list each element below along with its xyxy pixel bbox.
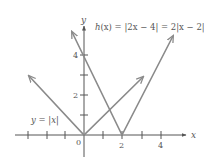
y-abs-x-label: y = |x| <box>30 115 59 126</box>
y-tick-label-2: 2 <box>73 91 78 100</box>
graph-canvas: y x 0 2 4 2 4 h(x) = |2x − 4| = 2|x − 2|… <box>0 0 204 167</box>
curve-h-x <box>72 32 173 135</box>
x-tick-label-2: 2 <box>119 141 124 150</box>
h-label-rest: (x) = |2x − 4| = 2|x − 2| <box>100 22 204 33</box>
x-tick-label-4: 4 <box>158 141 163 150</box>
y-axis <box>80 26 88 157</box>
y-tick-label-4: 4 <box>73 51 78 60</box>
x-axis <box>15 131 186 139</box>
x-axis-label: x <box>191 130 196 140</box>
h-function-label: h(x) = |2x − 4| = 2|x − 2| <box>95 22 204 33</box>
origin-label: 0 <box>76 138 81 147</box>
y-axis-label: y <box>80 15 87 25</box>
